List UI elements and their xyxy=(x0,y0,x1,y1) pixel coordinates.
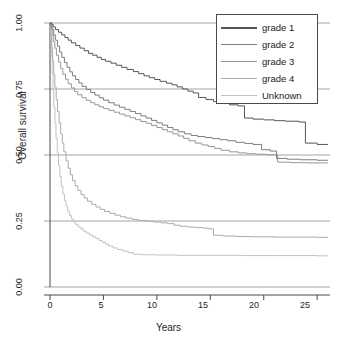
legend-swatch-line-icon xyxy=(221,44,257,45)
legend-label: grade 2 xyxy=(262,39,294,50)
legend-item-grade-3: grade 3 xyxy=(217,53,317,70)
legend-label: grade 1 xyxy=(262,22,294,33)
x-tick-label-10: 10 xyxy=(141,300,163,310)
legend-swatch-line-icon xyxy=(221,95,257,96)
legend-item-unknown: Unknown xyxy=(217,87,317,104)
legend-label: Unknown xyxy=(262,90,302,101)
legend-item-grade-1: grade 1 xyxy=(217,19,317,36)
legend-swatch-line-icon xyxy=(221,27,257,29)
legend-label: grade 3 xyxy=(262,56,294,67)
x-tick-label-15: 15 xyxy=(192,300,214,310)
y-tick-label-025: 0.25 xyxy=(14,204,24,238)
y-tick-label-0: 0.00 xyxy=(14,270,24,304)
x-tick-label-20: 20 xyxy=(243,300,265,310)
y-tick-label-1: 1.00 xyxy=(14,6,24,40)
legend-label: grade 4 xyxy=(262,73,294,84)
y-tick-label-050: 0.50 xyxy=(14,138,24,172)
y-tick-label-075: 0.75 xyxy=(14,72,24,106)
x-tick-label-25: 25 xyxy=(294,300,316,310)
x-tick-label-5: 5 xyxy=(90,300,112,310)
x-axis-label: Years xyxy=(0,322,337,333)
survival-chart-figure: Overall survival Years 1.00 0.75 0.50 0.… xyxy=(0,0,337,344)
legend-item-grade-2: grade 2 xyxy=(217,36,317,53)
legend-item-grade-4: grade 4 xyxy=(217,70,317,87)
legend-swatch-line-icon xyxy=(221,78,257,79)
legend-swatch-line-icon xyxy=(221,61,257,62)
x-tick-label-0: 0 xyxy=(39,300,61,310)
legend: grade 1grade 2grade 3grade 4Unknown xyxy=(216,14,318,104)
